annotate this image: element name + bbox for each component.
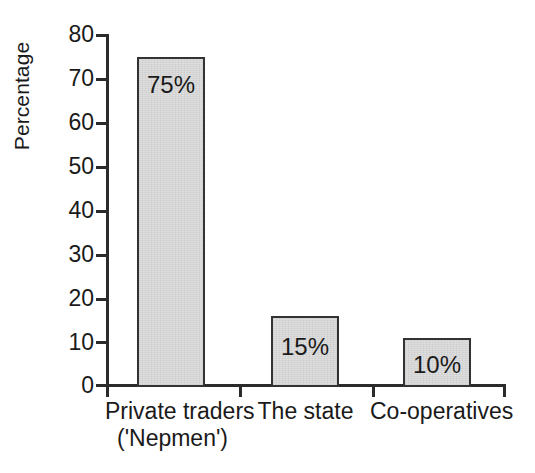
x-tick-mark-start [106, 385, 109, 397]
y-tick-mark-30 [96, 254, 107, 257]
y-tick-label-20: 20 [48, 287, 94, 310]
x-category-label-the-state: The state [239, 398, 372, 425]
y-tick-label-50: 50 [48, 155, 94, 178]
y-tick-mark-70 [96, 78, 107, 81]
y-tick-label-60: 60 [48, 111, 94, 134]
bar-the-state[interactable]: 15% [271, 316, 339, 387]
y-tick-label-0: 0 [48, 374, 94, 397]
category-label-line2: ('Nepmen') [105, 425, 240, 452]
bar-value-the-state: 15% [273, 335, 337, 359]
category-label-line1: The state [258, 398, 354, 424]
x-tick-mark-end [503, 385, 506, 397]
y-axis-tick-labels: 80 70 60 50 40 30 20 10 0 [44, 0, 94, 473]
bar-co-operatives[interactable]: 10% [403, 338, 471, 387]
category-label-line1: Private traders [105, 398, 255, 424]
y-tick-mark-20 [96, 298, 107, 301]
y-tick-label-70: 70 [48, 67, 94, 90]
y-tick-label-30: 30 [48, 243, 94, 266]
x-category-label-private-traders: Private traders ('Nepmen') [105, 398, 240, 452]
y-tick-mark-80 [96, 34, 107, 37]
x-tick-mark-2 [372, 385, 375, 397]
x-tick-mark-1 [239, 385, 242, 397]
y-tick-label-40: 40 [48, 199, 94, 222]
y-axis-title: Percentage [10, 16, 36, 176]
bar-chart: Percentage 80 70 60 50 40 30 20 10 0 75%… [0, 0, 535, 473]
y-tick-label-80: 80 [48, 23, 94, 46]
category-label-line1: Co-operatives [370, 398, 513, 424]
y-tick-mark-50 [96, 166, 107, 169]
bar-private-traders[interactable]: 75% [137, 57, 205, 387]
bar-value-private-traders: 75% [139, 73, 203, 97]
x-category-label-co-operatives: Co-operatives [370, 398, 505, 425]
bar-value-co-operatives: 10% [405, 353, 469, 377]
y-tick-mark-60 [96, 122, 107, 125]
y-tick-label-10: 10 [48, 331, 94, 354]
y-tick-mark-10 [96, 341, 107, 344]
y-tick-mark-40 [96, 210, 107, 213]
